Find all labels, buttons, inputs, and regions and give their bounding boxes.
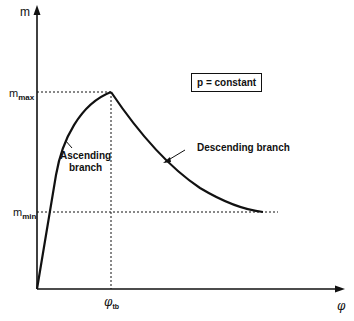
m-max-base: m [9,87,18,99]
y-axis-label: m [20,6,30,18]
x-axis-arrow-icon [335,286,345,293]
phi-tb-sub: tb [112,303,119,310]
ascending-branch-label: Ascending branch [60,150,111,174]
ascending-label-line1: Ascending [60,150,111,162]
m-min-base: m [13,206,22,218]
ascending-label-line2: branch [60,162,111,174]
ascending-branch-curve [37,92,111,289]
m-max-label: mmax [9,88,34,102]
x-axis-label: φ [337,300,345,312]
moment-curvature-diagram [0,0,354,321]
condition-box: p = constant [191,73,262,92]
ascending-leader-line [65,140,72,148]
descending-branch-label: Descending branch [197,142,290,154]
m-max-sub: max [18,93,34,102]
m-min-sub: min [22,212,36,221]
phi-tb-label: φtb [104,296,119,310]
y-axis-arrow-icon [34,5,41,15]
m-min-label: mmin [13,207,36,221]
